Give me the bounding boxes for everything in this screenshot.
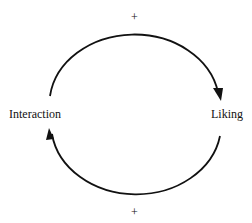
- node-interaction: Interaction: [9, 107, 61, 121]
- bottom-arc-edge: [52, 134, 220, 194]
- top-edge-sign: +: [131, 11, 138, 23]
- top-arc-edge: [50, 35, 218, 96]
- arrowhead-right-icon: [213, 88, 223, 101]
- bottom-edge-sign: +: [131, 206, 138, 218]
- node-liking: Liking: [211, 107, 243, 121]
